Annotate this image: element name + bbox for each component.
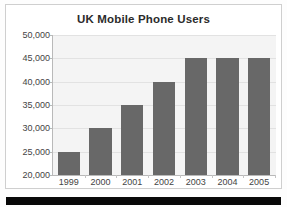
bar-slot [121, 35, 143, 175]
bar-slot [216, 35, 238, 175]
y-tick-label: 50,000 [8, 30, 50, 40]
y-tick-mark [50, 82, 53, 83]
y-tick-label: 35,000 [8, 100, 50, 110]
x-tick-mark [243, 175, 244, 178]
y-tick-mark [50, 128, 53, 129]
y-tick-label: 30,000 [8, 123, 50, 133]
y-tick-label: 40,000 [8, 77, 50, 87]
y-tick-label: 20,000 [8, 170, 50, 180]
bar [58, 152, 80, 175]
bar-series [53, 35, 276, 175]
x-tick-label: 2001 [116, 177, 148, 187]
x-tick-label: 2005 [243, 177, 275, 187]
x-tick-mark [116, 175, 117, 178]
y-tick-mark [50, 105, 53, 106]
x-tick-mark [180, 175, 181, 178]
bar [216, 58, 238, 175]
x-tick-mark [275, 175, 276, 178]
bar [121, 105, 143, 175]
y-axis-labels: 20,00025,00030,00035,00040,00045,00050,0… [6, 5, 50, 190]
x-tick-label: 1999 [53, 177, 85, 187]
bar [153, 82, 175, 175]
x-tick-label: 2004 [212, 177, 244, 187]
bar-slot [58, 35, 80, 175]
bar [248, 58, 270, 175]
bar [185, 58, 207, 175]
bar [89, 128, 111, 175]
bottom-black-band [6, 197, 281, 205]
bar-slot [185, 35, 207, 175]
screenshot-root: UK Mobile Phone Users 20,00025,00030,000… [0, 0, 287, 207]
y-tick-label: 25,000 [8, 147, 50, 157]
x-axis-labels: 1999200020012002200320042005 [53, 177, 276, 191]
x-tick-mark [85, 175, 86, 178]
y-tick-mark [50, 35, 53, 36]
y-tick-mark [50, 58, 53, 59]
y-tick-mark [50, 152, 53, 153]
bar-slot [89, 35, 111, 175]
x-tick-mark [212, 175, 213, 178]
y-tick-label: 45,000 [8, 53, 50, 63]
bar-slot [248, 35, 270, 175]
chart-panel: UK Mobile Phone Users 20,00025,00030,000… [5, 4, 282, 189]
x-tick-mark [148, 175, 149, 178]
x-tick-label: 2002 [148, 177, 180, 187]
x-tick-label: 2000 [85, 177, 117, 187]
bar-slot [153, 35, 175, 175]
y-tick-mark [50, 175, 53, 176]
x-tick-label: 2003 [180, 177, 212, 187]
